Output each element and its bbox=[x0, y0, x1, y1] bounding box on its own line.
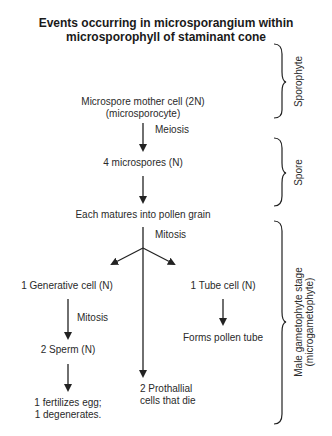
node-tube-cell: 1 Tube cell (N) bbox=[180, 280, 266, 292]
stage-label-gametophyte: Male gametophyte stage (microgametophyte… bbox=[293, 262, 317, 382]
fertilize-line-2: 1 degenerates. bbox=[23, 409, 113, 421]
mother-cell-line-1: Microspore mother cell (2N) bbox=[58, 96, 228, 108]
gametophyte-line-2: (microgametophyte) bbox=[304, 262, 315, 382]
prothallial-line-2: cells that die bbox=[140, 395, 210, 407]
fertilize-line-1: 1 fertilizes egg; bbox=[23, 397, 113, 409]
node-mother-cell: Microspore mother cell (2N) (microsporoc… bbox=[58, 96, 228, 120]
edge-label-mitosis-1: Mitosis bbox=[155, 229, 186, 241]
edge-label-mitosis-2: Mitosis bbox=[77, 312, 108, 324]
node-prothallial: 2 Prothallial cells that die bbox=[140, 383, 210, 407]
node-pollen-grain: Each matures into pollen grain bbox=[48, 209, 238, 221]
stage-label-sporophyte: Sporophyte bbox=[293, 52, 304, 112]
node-microspores: 4 microspores (N) bbox=[68, 157, 218, 169]
node-fertilize: 1 fertilizes egg; 1 degenerates. bbox=[23, 397, 113, 421]
prothallial-line-1: 2 Prothallial bbox=[140, 383, 210, 395]
node-pollen-tube: Forms pollen tube bbox=[178, 332, 268, 344]
stage-label-spore: Spore bbox=[293, 153, 304, 193]
mother-cell-line-2: (microsporocyte) bbox=[58, 108, 228, 120]
gametophyte-line-1: Male gametophyte stage bbox=[293, 262, 304, 382]
edge-label-meiosis: Meiosis bbox=[155, 124, 189, 136]
node-sperm: 2 Sperm (N) bbox=[28, 344, 108, 356]
node-generative-cell: 1 Generative cell (N) bbox=[12, 280, 122, 292]
